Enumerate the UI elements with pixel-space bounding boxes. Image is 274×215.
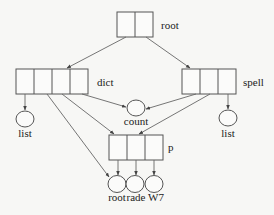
p-node: [109, 135, 163, 160]
list-right-label: list: [221, 127, 234, 139]
spell-node-label: spell: [243, 76, 264, 88]
spell-node: [182, 69, 236, 94]
dict-node: [16, 69, 88, 94]
trie-diagram: root dict spell count list list p root r…: [0, 0, 274, 215]
list-right-node: [219, 110, 237, 126]
list-left-label: list: [18, 127, 31, 139]
edge-spell-count: [146, 94, 196, 109]
leaf-rade-label: rade: [127, 191, 146, 203]
list-left-node: [16, 111, 34, 127]
p-node-label: p: [168, 141, 174, 153]
leaf-root-node: [108, 176, 126, 193]
edge-root-dict: [67, 37, 126, 68]
count-node: [127, 100, 145, 116]
edge-root-spell: [146, 37, 190, 68]
leaf-rade-node: [126, 176, 144, 193]
leaf-root-label: root: [108, 191, 126, 203]
edge-dict-p: [62, 94, 114, 134]
leaf-w7-node: [145, 176, 163, 193]
root-node: [117, 12, 153, 37]
count-node-label: count: [124, 115, 148, 127]
root-node-label: root: [161, 19, 179, 31]
leaf-w7-label: W7: [148, 191, 164, 203]
dict-node-label: dict: [97, 76, 114, 88]
edge-dict-count: [82, 94, 126, 107]
